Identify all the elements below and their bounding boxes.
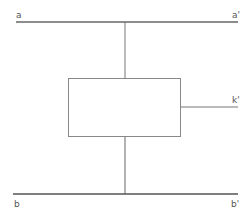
component-box xyxy=(69,79,181,137)
label-a-prime: a' xyxy=(232,11,240,20)
label-k-prime: k' xyxy=(232,96,240,105)
label-b: b xyxy=(14,200,20,209)
circuit-diagram xyxy=(0,0,251,219)
label-b-prime: b' xyxy=(231,200,239,209)
label-a: a xyxy=(16,11,22,20)
